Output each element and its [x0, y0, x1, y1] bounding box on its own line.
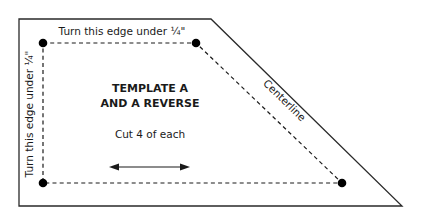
template-title-line1: TEMPLATE A: [112, 82, 189, 95]
template-outline: [19, 19, 402, 206]
template-diagram: Turn this edge under ¼" Turn this edge u…: [0, 0, 425, 218]
corner-dot-bottom-right: [338, 179, 347, 188]
top-edge-label: Turn this edge under ¼": [58, 25, 186, 37]
corner-dot-top-left: [39, 39, 48, 48]
template-title-line2: AND A REVERSE: [101, 97, 200, 110]
corner-dot-bottom-left: [39, 179, 48, 188]
cut-instruction: Cut 4 of each: [115, 128, 185, 140]
left-edge-label: Turn this edge under ¼": [23, 51, 35, 179]
corner-dot-top-right: [192, 39, 201, 48]
